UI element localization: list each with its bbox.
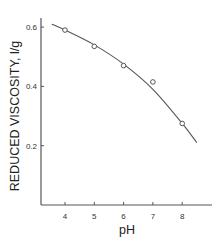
x-axis-title: pH [119, 223, 135, 237]
y-tick-label: 0.4 [26, 82, 38, 91]
data-point-marker [180, 121, 185, 126]
viscosity-chart: 456780.20.40.6 pH REDUCED VISCOSITY, l/g [0, 0, 220, 247]
data-point-marker [63, 28, 68, 33]
y-tick-label: 0.2 [26, 142, 38, 151]
x-tick-label: 8 [180, 212, 185, 221]
y-tick-label: 0.6 [26, 23, 38, 32]
y-axis-title: REDUCED VISCOSITY, l/g [8, 41, 22, 192]
axes [41, 18, 212, 205]
x-tick-label: 6 [121, 212, 126, 221]
curve-path [52, 24, 197, 143]
x-tick-label: 7 [151, 212, 156, 221]
data-points [63, 28, 185, 126]
data-point-marker [151, 80, 156, 85]
data-point-marker [121, 63, 126, 68]
fitted-curve [52, 24, 197, 143]
data-point-marker [92, 44, 97, 49]
x-tick-label: 4 [63, 212, 68, 221]
x-tick-label: 5 [92, 212, 97, 221]
ticks: 456780.20.40.6 [26, 23, 185, 221]
